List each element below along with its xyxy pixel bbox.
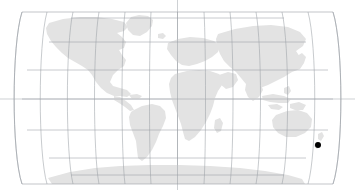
location-point-marker[interactable] xyxy=(315,142,321,148)
land-north-america xyxy=(46,17,131,97)
land-central-america xyxy=(114,96,134,111)
land-indonesia xyxy=(262,94,291,110)
land-caribbean xyxy=(129,94,142,99)
meridian-180E xyxy=(333,12,341,184)
world-map-container xyxy=(0,0,355,190)
map-outline-right xyxy=(333,12,341,184)
land-iceland xyxy=(158,33,166,39)
marker-group[interactable] xyxy=(315,142,321,148)
land-australia xyxy=(272,110,312,137)
meridian-150W xyxy=(40,12,47,184)
land-antarctica xyxy=(48,165,305,184)
map-outline-left xyxy=(14,12,22,184)
world-map-svg xyxy=(0,0,355,190)
land-papua-new-guinea xyxy=(290,102,306,110)
meridian-150E xyxy=(308,12,315,184)
meridian-180W xyxy=(14,12,22,184)
land-madagascar xyxy=(214,118,223,133)
land-arabia xyxy=(219,72,238,89)
land-south-america xyxy=(129,104,166,161)
landmass-group xyxy=(46,15,324,184)
